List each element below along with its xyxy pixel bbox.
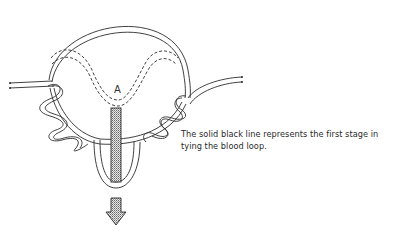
left-line-ends [10, 81, 54, 88]
down-arrow-icon [106, 198, 126, 225]
blood-loop-diagram [0, 0, 403, 237]
point-label-a: A [114, 84, 121, 95]
left-wraps [40, 84, 88, 151]
right-wraps [144, 96, 186, 142]
right-end-dots [241, 76, 243, 83]
right-line-ends [188, 77, 242, 104]
pull-bar [111, 108, 121, 182]
left-end-dots [9, 82, 11, 89]
caption-line-2: tying the blood loop. [181, 140, 403, 152]
caption-line-1: The solid black line represents the firs… [181, 128, 403, 140]
dashed-line-loop [51, 50, 178, 106]
figure-caption: The solid black line represents the firs… [181, 128, 403, 152]
